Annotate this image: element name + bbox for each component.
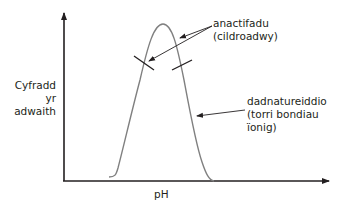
y-axis-label-line: yr [14, 92, 56, 105]
y-axis-label: Cyfradd yr adwaith [14, 79, 56, 118]
y-axis-label-line: adwaith [14, 105, 56, 118]
denaturation-arrow [197, 110, 245, 116]
enzyme-ph-diagram: Cyfradd yr adwaith pH anactifadu (cildro… [0, 0, 342, 209]
y-axis-label-line: Cyfradd [14, 79, 56, 92]
annotation-line: anactifadu [213, 17, 278, 30]
inactivation-arrow-right [180, 26, 212, 38]
activity-curve [109, 24, 214, 181]
inactivation-annotation: anactifadu (cildroadwy) [213, 17, 278, 43]
annotation-line: dadnatureiddio [247, 95, 327, 108]
annotation-line: ïonig) [247, 121, 327, 134]
annotation-line: (cildroadwy) [213, 30, 278, 43]
annotation-line: (torri bondiau [247, 108, 327, 121]
denaturation-annotation: dadnatureiddio (torri bondiau ïonig) [247, 95, 327, 134]
x-axis-label: pH [154, 188, 169, 201]
inactivation-arrow-left [149, 26, 212, 61]
left-threshold-tick [134, 56, 154, 70]
